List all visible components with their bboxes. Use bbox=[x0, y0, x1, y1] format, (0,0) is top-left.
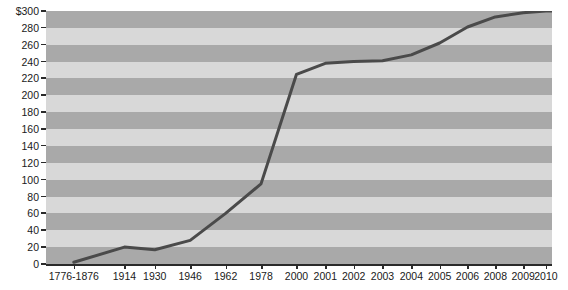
x-axis-tick-label: 2006 bbox=[456, 270, 479, 282]
x-axis-tick-mark bbox=[124, 264, 126, 269]
plot-area bbox=[46, 11, 552, 264]
y-axis-tick: 100 bbox=[0, 174, 46, 186]
y-axis-tick: 160 bbox=[0, 123, 46, 135]
x-axis-baseline bbox=[46, 264, 552, 266]
y-axis: 020406080100120140160180200220240260280$… bbox=[0, 0, 46, 290]
x-axis-tick-label: 1930 bbox=[143, 270, 166, 282]
series-line bbox=[46, 11, 552, 264]
y-axis-tick: 280 bbox=[0, 22, 46, 34]
x-axis-tick-label: 2000 bbox=[285, 270, 308, 282]
x-axis-tick-mark bbox=[261, 264, 263, 269]
x-axis-tick-label: 2001 bbox=[314, 270, 337, 282]
y-axis-tick: 260 bbox=[0, 39, 46, 51]
y-axis-tick: 220 bbox=[0, 72, 46, 84]
y-axis-tick: $300 bbox=[0, 5, 46, 17]
y-axis-tick: 60 bbox=[0, 207, 46, 219]
x-axis-tick-label: 2005 bbox=[428, 270, 451, 282]
y-axis-tick: 80 bbox=[0, 191, 46, 203]
x-axis-tick-label: 2009 bbox=[511, 270, 534, 282]
y-axis-tick: 120 bbox=[0, 157, 46, 169]
y-axis-tick: 20 bbox=[0, 241, 46, 253]
x-axis-tick-label: 1914 bbox=[113, 270, 136, 282]
x-axis-tick-label: 2002 bbox=[342, 270, 365, 282]
x-axis-tick-label: 1978 bbox=[249, 270, 272, 282]
x-axis: 1776-18761914193019461962197820002001200… bbox=[0, 264, 568, 290]
x-axis-tick-mark bbox=[411, 264, 413, 269]
y-axis-tick: 140 bbox=[0, 140, 46, 152]
x-axis-tick-mark bbox=[495, 264, 497, 269]
x-axis-tick-mark bbox=[382, 264, 384, 269]
x-axis-tick-label: 2004 bbox=[400, 270, 423, 282]
series-polyline bbox=[74, 11, 552, 262]
x-axis-tick-mark bbox=[523, 264, 525, 269]
x-axis-tick-label: 2003 bbox=[371, 270, 394, 282]
line-chart: 020406080100120140160180200220240260280$… bbox=[0, 0, 568, 290]
x-axis-tick-label: 1946 bbox=[179, 270, 202, 282]
x-axis-tick-label: 2010 bbox=[534, 270, 557, 282]
y-axis-tick: 240 bbox=[0, 56, 46, 68]
x-axis-tick-label: 2008 bbox=[484, 270, 507, 282]
x-axis-tick-mark bbox=[74, 264, 76, 269]
x-axis-tick-label: 1962 bbox=[214, 270, 237, 282]
x-axis-tick-mark bbox=[155, 264, 157, 269]
y-axis-tick: 180 bbox=[0, 106, 46, 118]
x-axis-tick-mark bbox=[467, 264, 469, 269]
x-axis-tick-mark bbox=[190, 264, 192, 269]
x-axis-tick-mark bbox=[440, 264, 442, 269]
x-axis-tick-mark bbox=[296, 264, 298, 269]
x-axis-tick-mark bbox=[325, 264, 327, 269]
x-axis-tick-label: 1776-1876 bbox=[49, 270, 99, 282]
x-axis-tick-mark bbox=[546, 264, 548, 269]
y-axis-tick: 200 bbox=[0, 89, 46, 101]
x-axis-tick-mark bbox=[226, 264, 228, 269]
y-axis-tick: 40 bbox=[0, 224, 46, 236]
x-axis-tick-mark bbox=[354, 264, 356, 269]
